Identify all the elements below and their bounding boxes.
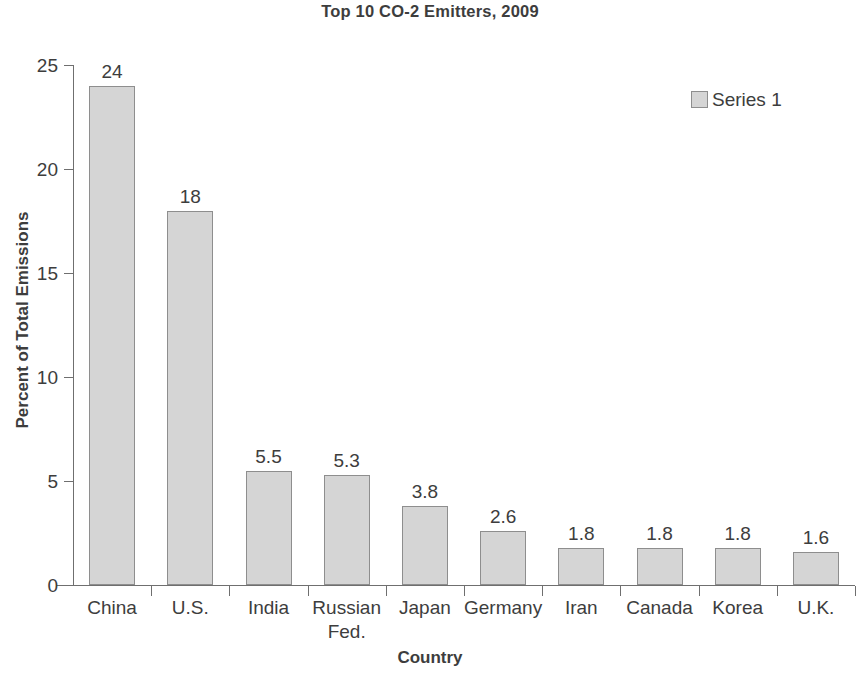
- y-axis-tick-label: 15: [14, 264, 58, 283]
- x-axis-category-label-line: India: [248, 597, 289, 618]
- x-axis-category-label: U.K.: [756, 596, 860, 620]
- x-axis-category-label-line: Fed.: [287, 620, 407, 644]
- bar[interactable]: [402, 506, 448, 585]
- y-axis-tick: [64, 273, 73, 274]
- x-axis-category-label-line: U.K.: [797, 597, 834, 618]
- chart-title: Top 10 CO-2 Emitters, 2009: [0, 2, 860, 21]
- bar[interactable]: [89, 86, 135, 585]
- x-axis-tick: [542, 586, 543, 596]
- x-axis-tick: [386, 586, 387, 596]
- legend-swatch-series-1: [691, 91, 708, 108]
- x-axis-tick: [620, 586, 621, 596]
- y-axis-tick: [64, 481, 73, 482]
- y-axis-tick: [64, 377, 73, 378]
- x-axis-tick: [464, 586, 465, 596]
- y-axis-tick-label: 10: [14, 368, 58, 387]
- bar-value-label: 24: [62, 62, 162, 81]
- bar-chart: Top 10 CO-2 Emitters, 2009 Percent of To…: [0, 0, 860, 677]
- x-axis-title: Country: [0, 648, 860, 668]
- x-axis-tick: [229, 586, 230, 596]
- x-axis-tick: [777, 586, 778, 596]
- bar-value-label: 3.8: [375, 482, 475, 501]
- bar[interactable]: [167, 211, 213, 585]
- x-axis-tick: [308, 586, 309, 596]
- bar[interactable]: [715, 548, 761, 585]
- x-axis-tick: [699, 586, 700, 596]
- plot-area: 24185.55.33.82.61.81.81.81.6: [73, 65, 855, 585]
- bar[interactable]: [637, 548, 683, 585]
- x-axis-line: [56, 585, 855, 586]
- legend-label-series-1: Series 1: [712, 90, 782, 109]
- bar[interactable]: [246, 471, 292, 585]
- bar[interactable]: [324, 475, 370, 585]
- y-axis-tick: [64, 585, 73, 586]
- y-axis-tick: [64, 169, 73, 170]
- bar-value-label: 18: [140, 187, 240, 206]
- x-axis-tick: [855, 586, 856, 596]
- legend: Series 1: [691, 90, 782, 109]
- bar-value-label: 1.6: [766, 528, 860, 547]
- x-axis-category-label-line: Iran: [565, 597, 598, 618]
- bar[interactable]: [558, 548, 604, 585]
- x-axis-category-label-line: U.S.: [172, 597, 209, 618]
- bar[interactable]: [480, 531, 526, 585]
- y-axis-tick-label: 20: [14, 160, 58, 179]
- x-axis-tick: [151, 586, 152, 596]
- y-axis-tick-label: 5: [14, 472, 58, 491]
- y-axis-tick-label: 0: [14, 576, 58, 595]
- bar[interactable]: [793, 552, 839, 585]
- y-axis-title: Percent of Total Emissions: [13, 160, 33, 480]
- y-axis-tick-label: 25: [14, 56, 58, 75]
- bar-value-label: 5.3: [297, 451, 397, 470]
